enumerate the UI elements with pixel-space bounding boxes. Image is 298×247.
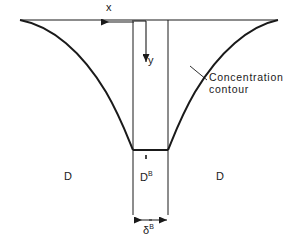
region-label-grain-boundary: DB (140, 170, 153, 183)
region-label-grain-boundary-superscript: B (148, 170, 153, 177)
region-label-grain-boundary-base: D (140, 171, 148, 183)
x-axis-label: x (106, 1, 112, 14)
diagram-canvas (0, 0, 298, 247)
concentration-contour-annotation: Concentration contour (209, 71, 283, 95)
delta-dimension-label: δB (143, 223, 154, 236)
contour-leader-line (190, 66, 207, 80)
figure-grain-boundary-diffusion: x y D DB D Concentration contour δB (0, 0, 298, 247)
region-label-left-grain: D (64, 170, 72, 183)
y-axis-label: y (148, 54, 154, 67)
region-label-right-grain: D (216, 170, 224, 183)
concentration-contour-annotation-line2: contour (209, 83, 283, 95)
concentration-contour-annotation-line1: Concentration (209, 71, 283, 83)
delta-superscript: B (149, 223, 154, 230)
concentration-contour-left (20, 20, 133, 150)
